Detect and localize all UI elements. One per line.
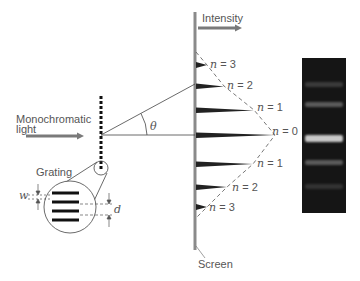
diffraction-grating-diagram: Intensity Monochromatic light Grating Sc… xyxy=(0,0,360,281)
band-upper-n3 xyxy=(305,82,343,87)
theta-arc xyxy=(141,114,147,136)
w-label: w xyxy=(19,190,28,201)
order-label-upper-n3: n = 3 xyxy=(210,59,236,70)
screen-label: Screen xyxy=(198,259,233,270)
screen-pointer-line xyxy=(196,246,205,258)
intensity-label: Intensity xyxy=(202,13,243,24)
band-n0 xyxy=(305,135,343,142)
band-lower-n2 xyxy=(305,184,343,189)
order-label-lower-n2: n = 2 xyxy=(232,182,258,193)
order-label-lower-n1: n = 1 xyxy=(257,158,283,169)
peak-upper-n2 xyxy=(196,84,224,90)
peak-upper-n1 xyxy=(196,108,254,114)
grating-label: Grating xyxy=(36,167,72,178)
grating-zoom-large-circle xyxy=(44,181,96,233)
peak-lower-n1 xyxy=(196,162,253,168)
spectrum-photo xyxy=(302,58,346,213)
order-label-upper-n2: n = 2 xyxy=(227,80,253,91)
order-label-lower-n3: n = 3 xyxy=(209,202,235,213)
intensity-arrow-icon xyxy=(198,25,242,32)
theta-label: θ xyxy=(150,121,157,132)
peak-lower-n2 xyxy=(196,185,227,191)
order-label-n0: n = 0 xyxy=(272,126,298,137)
band-lower-n1 xyxy=(305,160,343,165)
order-label-upper-n1: n = 1 xyxy=(257,102,283,113)
diffracted-ray xyxy=(101,84,195,135)
peak-n0 xyxy=(196,133,275,139)
d-label: d xyxy=(114,204,121,215)
light-label: light xyxy=(16,124,36,135)
